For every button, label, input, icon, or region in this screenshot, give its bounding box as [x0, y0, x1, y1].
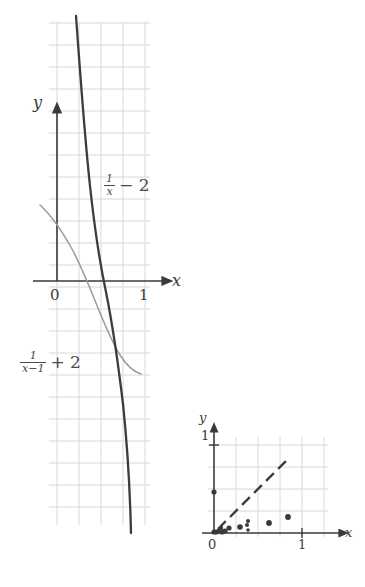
inset-x-axis-label: x — [345, 525, 352, 540]
curve-label-light-numerator: 1 — [20, 350, 46, 363]
inset-dot — [211, 489, 216, 494]
curve-label-dark-fraction: 1 x — [104, 173, 115, 197]
curve-label-dark-operator: − 2 — [115, 177, 149, 194]
inset-y-axis-label: y — [199, 410, 206, 425]
curve-label-dark-denominator: x — [104, 186, 115, 198]
inset-dot — [226, 525, 231, 530]
main-y-axis-label: y — [33, 93, 42, 112]
curve-label-light-denominator: x−1 — [20, 363, 46, 375]
inset-dot — [246, 519, 250, 523]
curve-label-dark: 1 x − 2 — [104, 173, 149, 197]
curve-label-light: 1 x−1 + 2 — [20, 350, 81, 374]
main-x-axis-label: x — [172, 271, 181, 290]
inset-x-tick-0: 0 — [208, 537, 216, 552]
inset-dot — [246, 528, 250, 532]
inset-dot — [237, 524, 243, 530]
inset-x-tick-1: 1 — [298, 537, 306, 552]
inset-reference-line — [218, 458, 289, 529]
curve-label-light-fraction: 1 x−1 — [20, 350, 46, 374]
inset-dot — [245, 523, 249, 527]
main-x-tick-0: 0 — [50, 286, 60, 304]
curve-label-light-operator: + 2 — [46, 354, 80, 371]
inset-dot — [266, 520, 272, 526]
main-x-tick-1: 1 — [139, 286, 149, 304]
inset-scatter-points — [211, 489, 291, 534]
main-grid — [49, 22, 150, 525]
inset-y-tick-1: 1 — [201, 428, 209, 443]
inset-dot — [219, 526, 223, 530]
curve-label-dark-numerator: 1 — [104, 173, 115, 186]
inset-plot-canvas — [188, 407, 365, 587]
figure-root: y x 0 1 1 x − 2 1 x−1 + 2 — [0, 0, 365, 587]
inset-dot — [285, 514, 291, 520]
